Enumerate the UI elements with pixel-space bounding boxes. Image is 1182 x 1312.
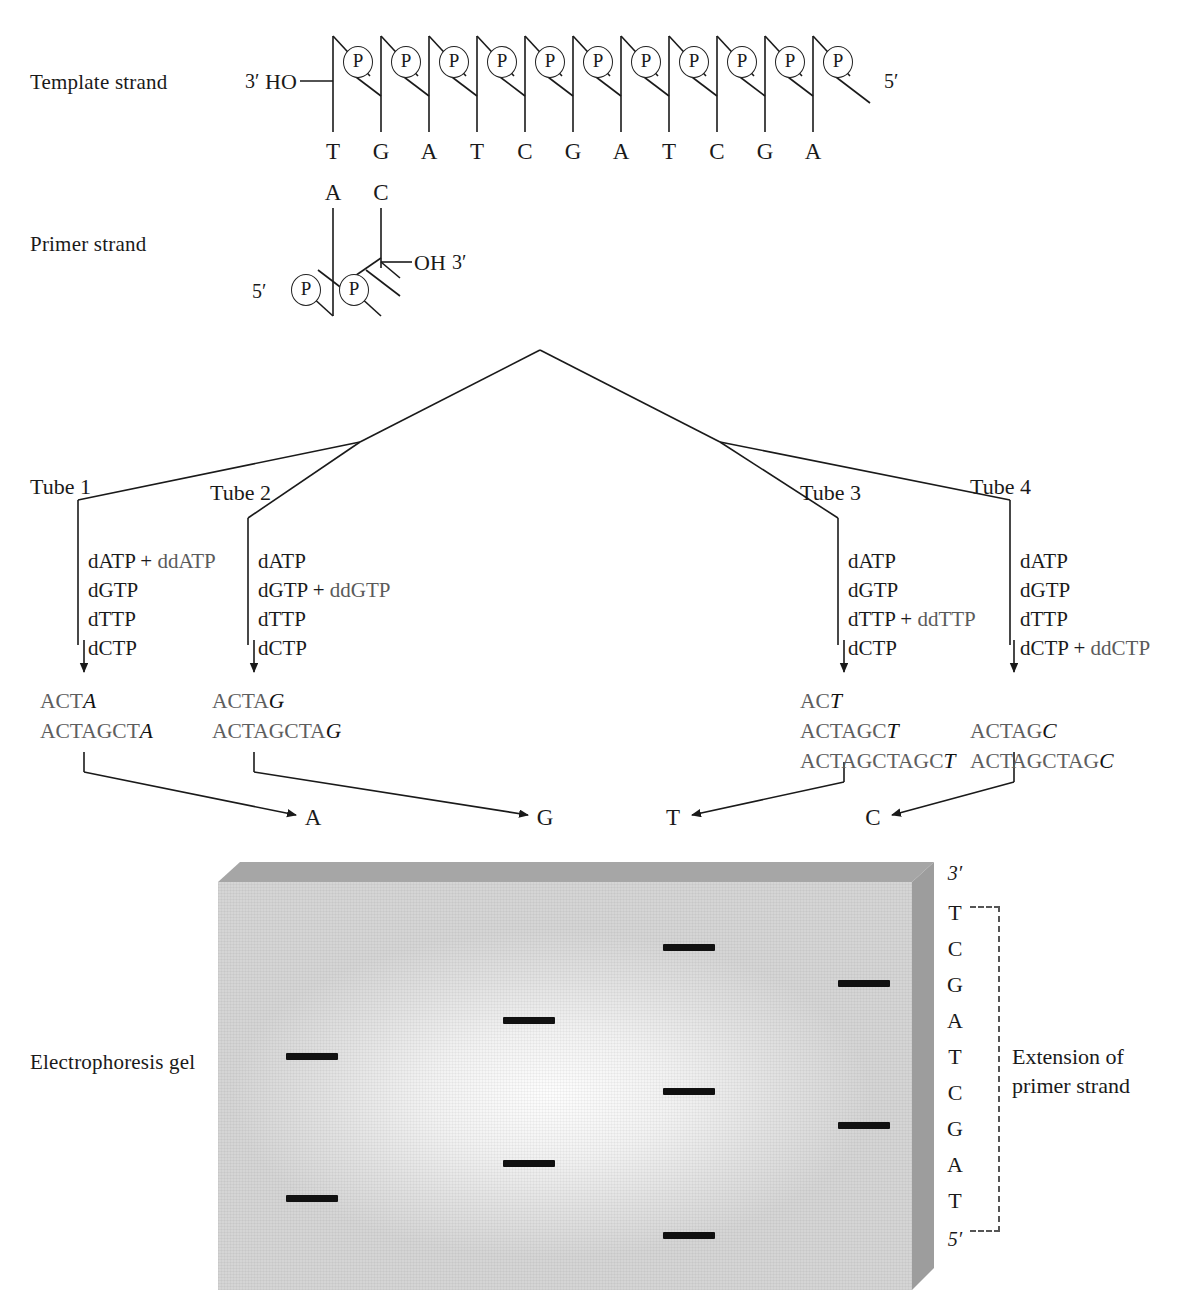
tube-2-products: ACTAG ACTAGCTAG <box>212 686 341 746</box>
tube-4-products: ACTAGC ACTAGCTAGC <box>970 716 1113 776</box>
dideoxy-reagent: ddATP <box>157 549 215 573</box>
tube-4-title: Tube 4 <box>970 474 1031 500</box>
ladder-base: C <box>942 936 968 962</box>
template-base: G <box>561 139 585 165</box>
figure-canvas: Template strand 3′ HO 5′ P P P P P P P P… <box>0 0 1182 1312</box>
phosphate-icon: P <box>679 46 709 78</box>
product-fragment: ACTAG <box>212 686 341 716</box>
reagent-line: dTTP + ddTTP <box>848 605 976 634</box>
product-fragment: ACT <box>800 686 955 716</box>
phosphate-icon: P <box>631 46 661 78</box>
extension-bracket <box>970 906 1000 1232</box>
primer-5prime-label: 5′ <box>252 280 266 303</box>
gel-band <box>663 1232 715 1239</box>
reagent-line: dCTP <box>88 634 216 663</box>
terminator-base: A <box>83 689 96 713</box>
product-fragment: ACTA <box>40 686 153 716</box>
phosphate-icon: P <box>487 46 517 78</box>
ladder-base: T <box>942 900 968 926</box>
template-base: C <box>513 139 537 165</box>
ladder-5prime-label: 5′ <box>942 1228 968 1251</box>
tube-1-products: ACTA ACTAGCTA <box>40 686 153 746</box>
dideoxy-reagent: ddCTP <box>1091 636 1151 660</box>
reagent-line: dATP <box>1020 547 1150 576</box>
template-base: A <box>801 139 825 165</box>
terminator-base: G <box>326 719 342 743</box>
ladder-base: A <box>942 1152 968 1178</box>
gel-lane-label-a: A <box>300 805 326 831</box>
primer-hydroxyl-label: OH <box>414 250 446 276</box>
reagent-line: dATP + ddATP <box>88 547 216 576</box>
phosphate-icon: P <box>583 46 613 78</box>
gel-top-bevel <box>218 862 934 882</box>
tube-2-reagents: dATP dGTP + ddGTP dTTP dCTP <box>258 547 390 663</box>
ladder-base: G <box>942 972 968 998</box>
reagent-line: dCTP <box>848 634 976 663</box>
ladder-base: A <box>942 1008 968 1034</box>
phosphate-icon: P <box>439 46 469 78</box>
reagent-line: dTTP <box>1020 605 1150 634</box>
gel-lane-label-g: G <box>532 805 558 831</box>
tube-2-title: Tube 2 <box>210 480 271 506</box>
terminator-base: A <box>140 719 153 743</box>
extension-label-line-1: Extension of <box>1012 1042 1130 1071</box>
template-base: T <box>321 139 345 165</box>
extension-of-primer-strand-label: Extension of primer strand <box>1012 1042 1130 1100</box>
primer-base: C <box>369 180 393 206</box>
terminator-base: T <box>943 749 955 773</box>
terminator-base: T <box>830 689 842 713</box>
product-fragment: ACTAGC <box>970 716 1113 746</box>
tube-1-title: Tube 1 <box>30 474 91 500</box>
gel-band <box>286 1195 338 1202</box>
reagent-line: dGTP + ddGTP <box>258 576 390 605</box>
phosphate-icon: P <box>343 46 373 78</box>
product-fragment: ACTAGCTAG <box>212 716 341 746</box>
reagent-line: dATP <box>848 547 976 576</box>
product-fragment: ACTAGCTAGC <box>970 746 1113 776</box>
primer-base: A <box>321 180 345 206</box>
tube-3-products: ACT ACTAGCT ACTAGCTAGCT <box>800 686 955 776</box>
reagent-line: dGTP <box>848 576 976 605</box>
ladder-3prime-label: 3′ <box>942 862 968 885</box>
reagent-line: dCTP + ddCTP <box>1020 634 1150 663</box>
gel-band <box>503 1017 555 1024</box>
gel-right-bevel <box>912 862 934 1290</box>
primer-strand-label: Primer strand <box>30 232 146 257</box>
template-5prime-label: 5′ <box>884 70 898 93</box>
template-strand-label: Template strand <box>30 70 167 95</box>
terminator-base: T <box>887 719 899 743</box>
dideoxy-reagent: ddGTP <box>330 578 391 602</box>
phosphate-icon: P <box>291 274 321 306</box>
electrophoresis-gel-label: Electrophoresis gel <box>30 1050 195 1075</box>
terminator-base: C <box>1099 749 1113 773</box>
gel-band <box>838 980 890 987</box>
reagent-line: dGTP <box>88 576 216 605</box>
template-3prime-label: 3′ <box>245 70 259 93</box>
template-base: A <box>609 139 633 165</box>
gel-band <box>838 1122 890 1129</box>
product-fragment: ACTAGCT <box>800 716 955 746</box>
product-fragment: ACTAGCTAGCT <box>800 746 955 776</box>
gel-band <box>286 1053 338 1060</box>
tube-4-reagents: dATP dGTP dTTP dCTP + ddCTP <box>1020 547 1150 663</box>
gel-band <box>663 1088 715 1095</box>
ladder-base: T <box>942 1188 968 1214</box>
tube-1-reagents: dATP + ddATP dGTP dTTP dCTP <box>88 547 216 663</box>
extension-label-line-2: primer strand <box>1012 1071 1130 1100</box>
gel-lane-label-t: T <box>660 805 686 831</box>
phosphate-icon: P <box>727 46 757 78</box>
ladder-base: T <box>942 1044 968 1070</box>
phosphate-icon: P <box>339 274 369 306</box>
gel-band <box>503 1160 555 1167</box>
dideoxy-reagent: ddTTP <box>917 607 975 631</box>
gel-surface <box>218 882 912 1290</box>
reagent-line: dTTP <box>88 605 216 634</box>
template-base: C <box>705 139 729 165</box>
electrophoresis-gel <box>218 862 934 1290</box>
phosphate-icon: P <box>535 46 565 78</box>
reagent-line: dGTP <box>1020 576 1150 605</box>
template-base: T <box>465 139 489 165</box>
ladder-base: G <box>942 1116 968 1142</box>
gel-lane-label-c: C <box>860 805 886 831</box>
reagent-line: dCTP <box>258 634 390 663</box>
